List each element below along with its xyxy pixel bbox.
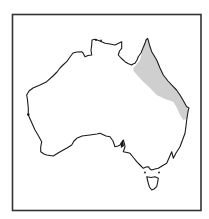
bass-strait-island-mark (144, 172, 146, 174)
melville-island-mark (100, 40, 102, 42)
map-figure (0, 0, 209, 219)
flinders-island-mark (158, 172, 160, 174)
shark-bay-mark (27, 113, 30, 116)
northern-island-mark (95, 39, 97, 41)
